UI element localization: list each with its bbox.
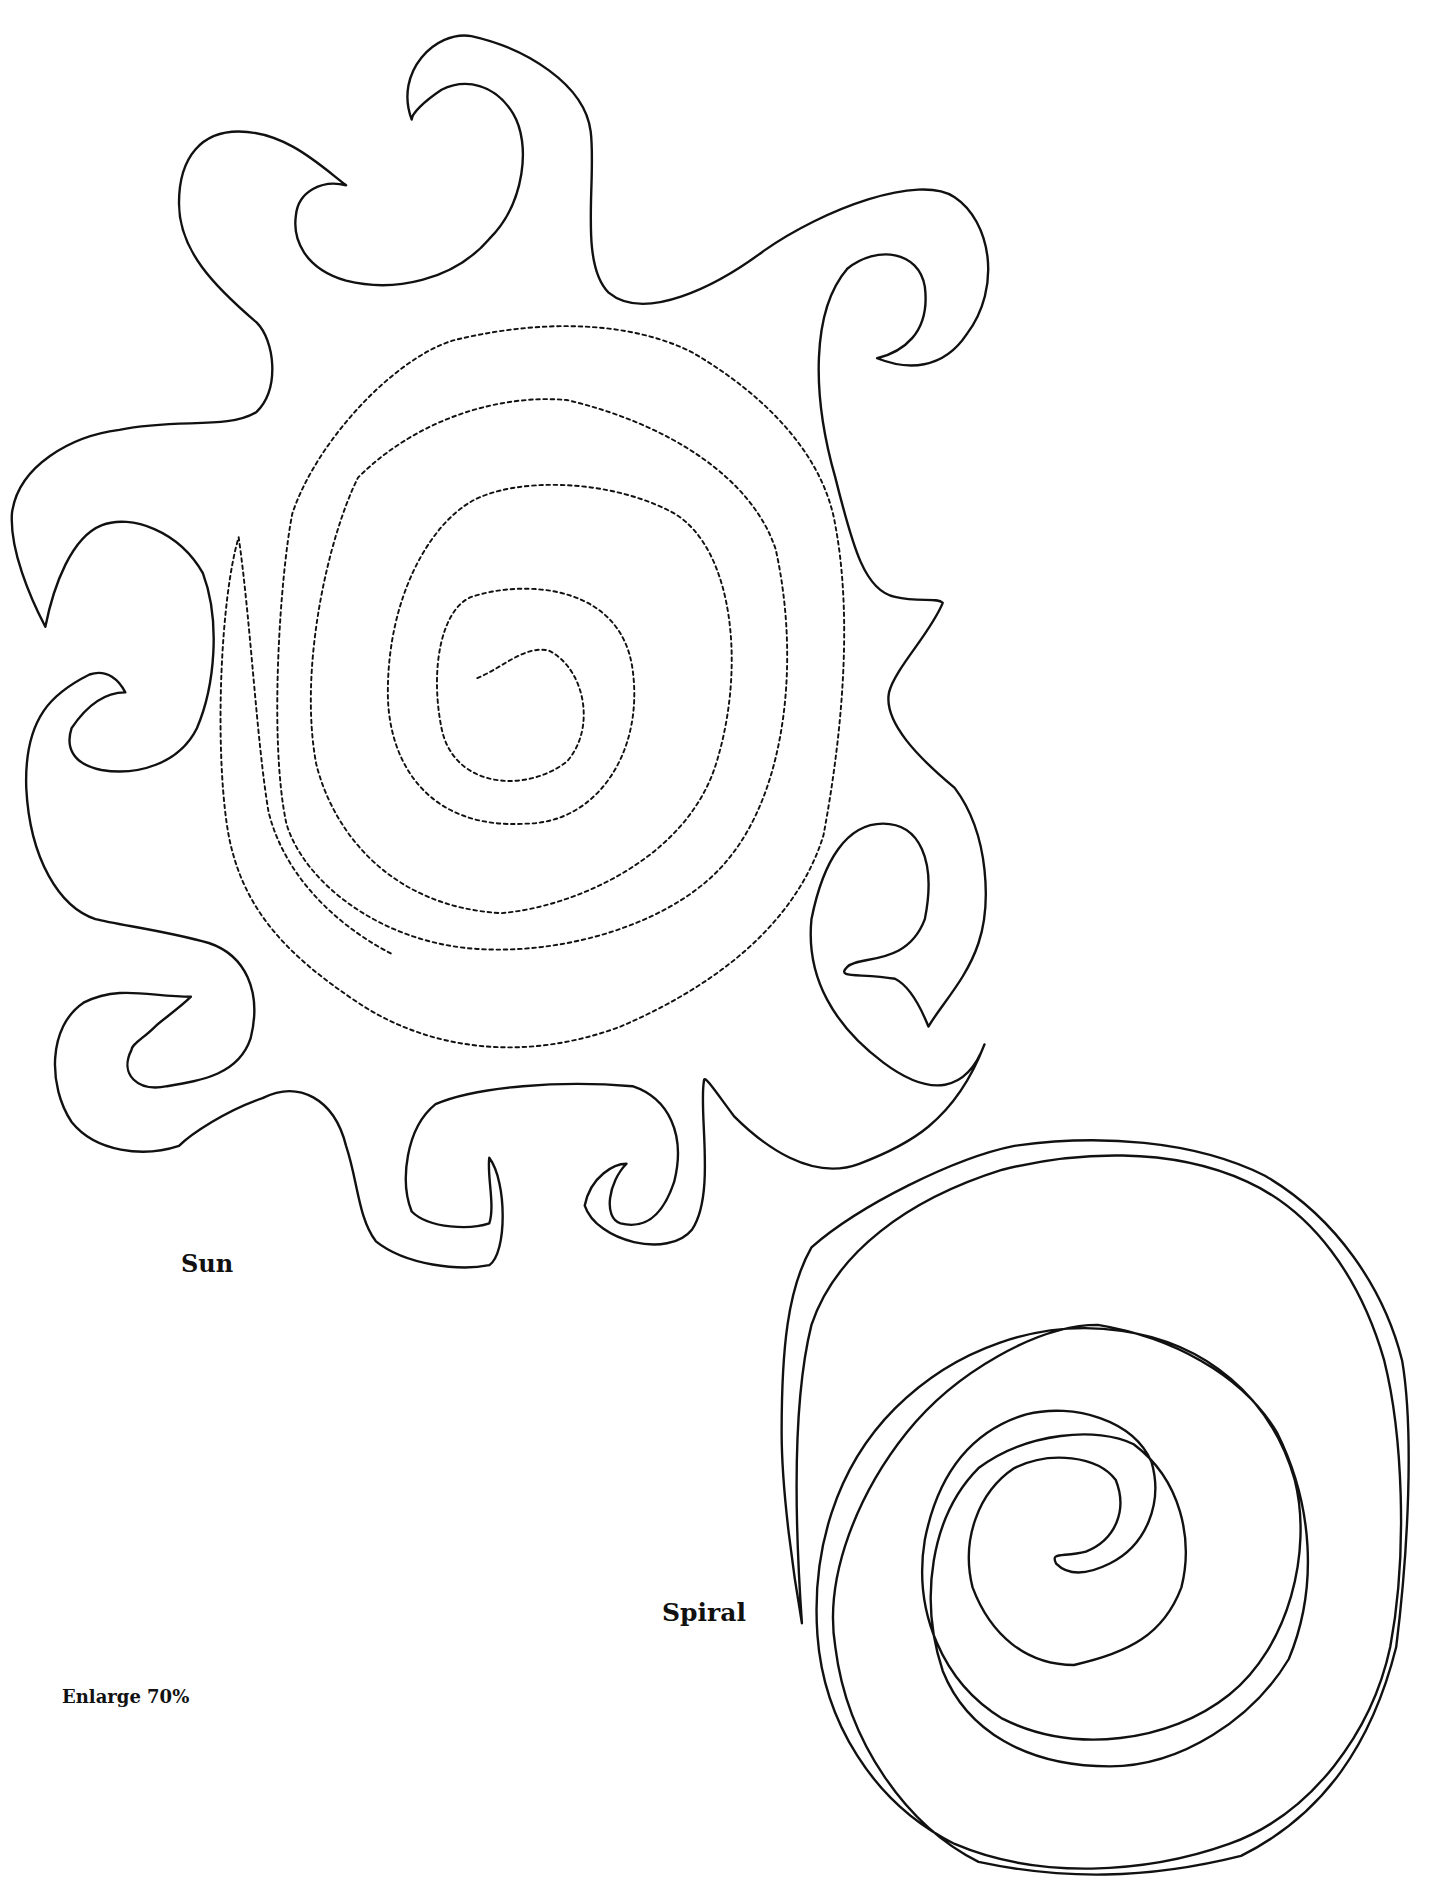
sun-dotted-spiral [221, 326, 845, 1047]
spiral-outline [782, 1140, 1409, 1874]
enlarge-note: Enlarge 70% [62, 1686, 189, 1707]
spiral-label: Spiral [662, 1598, 746, 1627]
sun-outline [12, 35, 988, 1267]
sun-label: Sun [181, 1249, 233, 1278]
